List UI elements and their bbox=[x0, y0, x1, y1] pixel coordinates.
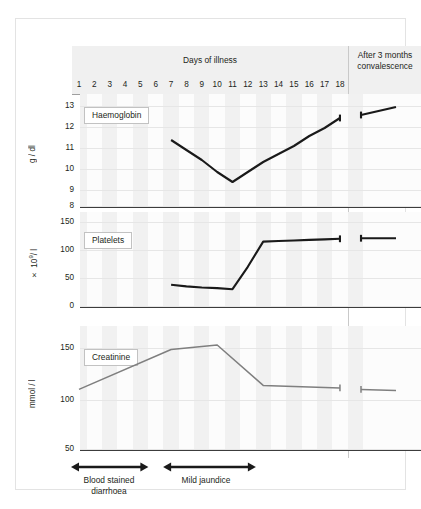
double-headed-arrow bbox=[71, 462, 148, 471]
annotation-bar1-line2: diarrhoea bbox=[64, 486, 154, 497]
double-headed-arrow bbox=[163, 462, 256, 471]
series-line bbox=[361, 107, 396, 115]
data-lines bbox=[16, 19, 407, 491]
chart-frame: Days of illness After 3 months convalesc… bbox=[15, 18, 406, 490]
annotation-bar1-line1: Blood stained bbox=[64, 475, 154, 486]
annotation-label-mild-jaundice: Mild jaundice bbox=[156, 475, 256, 486]
series-line bbox=[171, 239, 340, 289]
series-line bbox=[79, 345, 340, 389]
annotation-label-blood-stained-diarrhoea: Blood stained diarrhoea bbox=[64, 475, 154, 496]
series-line bbox=[171, 118, 340, 182]
series-line bbox=[361, 389, 396, 390]
